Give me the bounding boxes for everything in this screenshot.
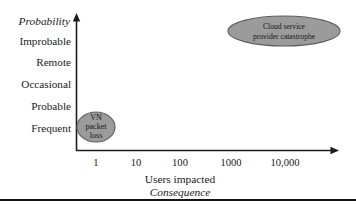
y-tick-label: Remote [36,56,71,68]
bubble-label-line: packet [85,122,107,131]
data-bubble-cloud-service-provider-catastrophe[interactable]: Cloud service provider catastrophe [228,16,340,46]
x-axis-tick-labels: 1 10 100 1000 10,000 [93,157,299,168]
x-axis-subtitle: Consequence [150,186,211,198]
x-tick-label: 100 [172,157,188,168]
bubble-label-line: Cloud service [263,22,306,31]
x-axis-arrow-icon [331,147,340,154]
x-tick-label: 10,000 [270,157,299,168]
y-tick-label: Frequent [31,122,72,134]
x-axis-title: Users impacted [145,173,216,185]
figure-footer-rule [0,199,356,201]
y-tick-label: Occasional [21,78,71,90]
y-axis-arrow-icon [73,13,80,22]
data-bubble-vn-packet-loss[interactable]: VN packet loss [77,112,115,142]
x-tick-label: 1000 [220,157,241,168]
bubble-label-line: loss [90,131,103,140]
y-axis-title: Probability [18,15,71,27]
bubble-label-line: VN [90,113,102,122]
bubble-label-line: provider catastrophe [253,32,316,41]
x-tick-label: 10 [131,157,142,168]
y-tick-label: Probable [31,100,71,112]
x-tick-label: 1 [93,157,98,168]
y-tick-label: Improbable [19,35,71,47]
risk-matrix-chart: Probability Improbable Remote Occasional… [0,0,356,212]
bubble-shape [228,16,340,46]
y-axis-tick-labels: Improbable Remote Occasional Probable Fr… [19,35,71,134]
